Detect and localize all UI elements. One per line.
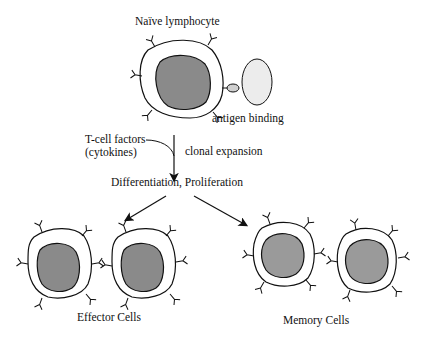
arrow-to-memory <box>194 196 246 225</box>
cytokines-label: (cytokines) <box>85 146 137 159</box>
antigen <box>222 59 272 105</box>
effector-cell-2 <box>100 220 187 309</box>
arrow-to-effector <box>126 196 166 220</box>
memory-cell-2 <box>326 218 409 301</box>
clonal-expansion-label: clonal expansion <box>185 145 263 158</box>
process-label: Differentiation, Proliferation <box>111 176 243 189</box>
antigen-binding-label: antigen binding <box>212 112 284 125</box>
memory-cells-label: Memory Cells <box>283 314 349 327</box>
cytokine-curve <box>146 140 174 156</box>
lymphocyte-diagram <box>0 0 428 341</box>
effector-cells-label: Effector Cells <box>77 311 141 324</box>
naive-lymphocyte-label: Naïve lymphocyte <box>135 15 220 28</box>
t-cell-factors-label: T-cell factors <box>85 133 146 146</box>
effector-cell-1 <box>16 220 103 309</box>
naive-lymphocyte-cell <box>130 33 223 123</box>
memory-cell-1 <box>242 212 325 293</box>
